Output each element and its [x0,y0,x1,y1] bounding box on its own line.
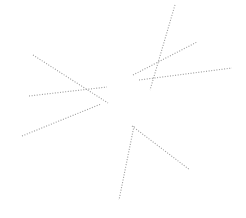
figure-canvas [0,0,246,218]
figure-background [0,0,246,218]
dotted-line-figure [0,0,246,218]
